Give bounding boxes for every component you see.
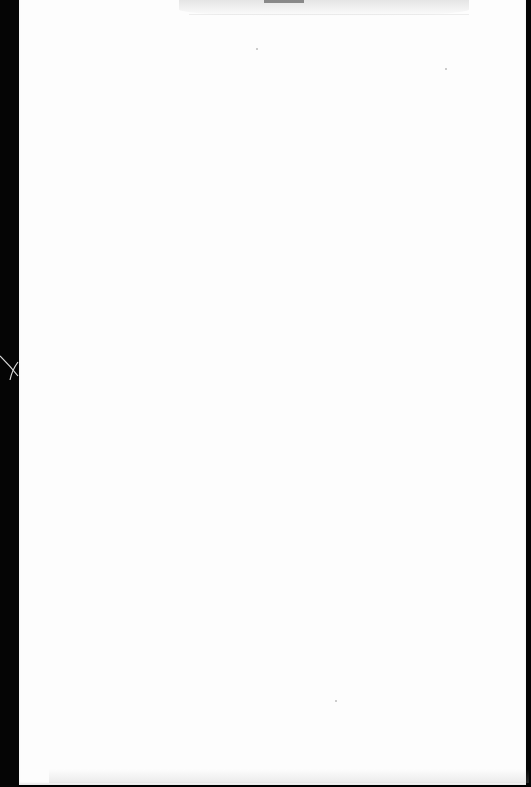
faint-text-ghost (189, 14, 469, 15)
dust-speck (445, 68, 447, 70)
scan-border-right (526, 0, 531, 787)
top-edge-mark (264, 0, 304, 3)
scan-border-left (0, 0, 19, 787)
bottom-edge-smudge (49, 769, 529, 783)
dust-speck (335, 700, 337, 702)
dust-speck (256, 48, 258, 50)
cross-mark-icon (0, 352, 22, 382)
blank-document-page (19, 0, 526, 785)
